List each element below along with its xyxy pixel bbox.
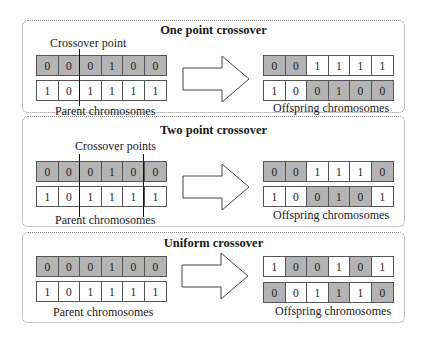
- offspring-chromosome-1: 001110: [263, 161, 394, 182]
- gene-cell: 0: [59, 187, 81, 206]
- gene-cell: 0: [59, 257, 81, 276]
- gene-cell: 1: [102, 162, 124, 181]
- gene-cell: 1: [372, 56, 394, 75]
- gene-cell: 1: [80, 282, 102, 301]
- gene-cell: 1: [329, 283, 351, 302]
- arrow-right-icon: [182, 163, 252, 213]
- gene-cell: 0: [59, 56, 81, 75]
- parent-chromosome-2: 101111: [36, 186, 167, 207]
- crossover-point-line-2: [143, 154, 144, 217]
- gene-cell: 1: [372, 257, 394, 276]
- parent-chromosomes-caption: Parent chromosomes: [53, 305, 153, 320]
- gene-cell: 1: [37, 187, 59, 206]
- gene-cell: 0: [80, 257, 102, 276]
- gene-cell: 0: [286, 283, 308, 302]
- gene-cell: 0: [59, 81, 81, 100]
- gene-cell: 1: [264, 257, 286, 276]
- gene-cell: 0: [264, 162, 286, 181]
- panel-title: Two point crossover: [23, 123, 404, 138]
- gene-cell: 1: [123, 81, 145, 100]
- gene-cell: 0: [37, 56, 59, 75]
- gene-cell: 1: [145, 187, 167, 206]
- offspring-chromosomes-caption: Offspring chromosomes: [275, 304, 391, 319]
- gene-cell: 1: [102, 81, 124, 100]
- gene-cell: 1: [145, 282, 167, 301]
- gene-cell: 1: [37, 81, 59, 100]
- gene-cell: 0: [286, 187, 308, 206]
- gene-cell: 1: [329, 257, 351, 276]
- gene-cell: 0: [286, 162, 308, 181]
- gene-cell: 0: [264, 56, 286, 75]
- gene-cell: 1: [307, 162, 329, 181]
- gene-cell: 1: [350, 162, 372, 181]
- gene-cell: 1: [307, 56, 329, 75]
- gene-cell: 0: [307, 257, 329, 276]
- gene-cell: 0: [264, 283, 286, 302]
- crossover-point-label: Crossover point: [50, 36, 126, 51]
- gene-cell: 0: [372, 81, 394, 100]
- gene-cell: 0: [59, 162, 81, 181]
- parent-chromosome-1: 000100: [36, 256, 167, 277]
- offspring-chromosome-2: 100101: [263, 186, 394, 207]
- arrow-right-icon: [181, 252, 251, 302]
- gene-cell: 1: [102, 187, 124, 206]
- gene-cell: 1: [102, 257, 124, 276]
- gene-cell: 1: [329, 81, 351, 100]
- gene-cell: 1: [102, 282, 124, 301]
- gene-cell: 1: [350, 283, 372, 302]
- panel-title: Uniform crossover: [23, 236, 404, 251]
- offspring-chromosomes-caption: Offspring chromosomes: [273, 101, 389, 116]
- gene-cell: 1: [264, 187, 286, 206]
- gene-cell: 0: [80, 162, 102, 181]
- parent-chromosome-1: 000100: [36, 55, 167, 76]
- gene-cell: 1: [80, 81, 102, 100]
- crossover-point-line-1: [79, 154, 80, 217]
- offspring-chromosome-2: 001110: [263, 282, 394, 303]
- gene-cell: 0: [80, 56, 102, 75]
- gene-cell: 0: [123, 162, 145, 181]
- parent-chromosome-2: 101111: [36, 80, 167, 101]
- gene-cell: 0: [145, 56, 167, 75]
- gene-cell: 0: [307, 187, 329, 206]
- offspring-chromosome-1: 100101: [263, 256, 394, 277]
- gene-cell: 1: [329, 162, 351, 181]
- gene-cell: 0: [350, 257, 372, 276]
- gene-cell: 0: [286, 257, 308, 276]
- gene-cell: 0: [37, 162, 59, 181]
- gene-cell: 1: [329, 56, 351, 75]
- gene-cell: 0: [59, 282, 81, 301]
- gene-cell: 1: [102, 56, 124, 75]
- gene-cell: 1: [145, 81, 167, 100]
- offspring-chromosome-1: 001111: [263, 55, 394, 76]
- gene-cell: 0: [145, 257, 167, 276]
- gene-cell: 0: [307, 81, 329, 100]
- gene-cell: 1: [80, 187, 102, 206]
- arrow-right-icon: [182, 55, 252, 105]
- gene-cell: 0: [123, 56, 145, 75]
- gene-cell: 0: [286, 56, 308, 75]
- offspring-chromosomes-caption: Offspring chromosomes: [273, 208, 389, 223]
- gene-cell: 1: [123, 282, 145, 301]
- gene-cell: 0: [37, 257, 59, 276]
- gene-cell: 1: [37, 282, 59, 301]
- gene-cell: 1: [372, 187, 394, 206]
- gene-cell: 0: [123, 257, 145, 276]
- gene-cell: 0: [372, 283, 394, 302]
- parent-chromosomes-caption: Parent chromosomes: [55, 213, 155, 228]
- gene-cell: 0: [145, 162, 167, 181]
- gene-cell: 1: [329, 187, 351, 206]
- crossover-points-label: Crossover points: [75, 139, 156, 154]
- gene-cell: 0: [286, 81, 308, 100]
- parent-chromosome-2: 101111: [36, 281, 167, 302]
- gene-cell: 0: [372, 162, 394, 181]
- gene-cell: 1: [307, 283, 329, 302]
- gene-cell: 1: [350, 56, 372, 75]
- parent-chromosome-1: 000100: [36, 161, 167, 182]
- gene-cell: 1: [264, 81, 286, 100]
- gene-cell: 1: [123, 187, 145, 206]
- gene-cell: 0: [350, 81, 372, 100]
- offspring-chromosome-2: 100100: [263, 80, 394, 101]
- crossover-point-line: [79, 49, 80, 106]
- gene-cell: 0: [350, 187, 372, 206]
